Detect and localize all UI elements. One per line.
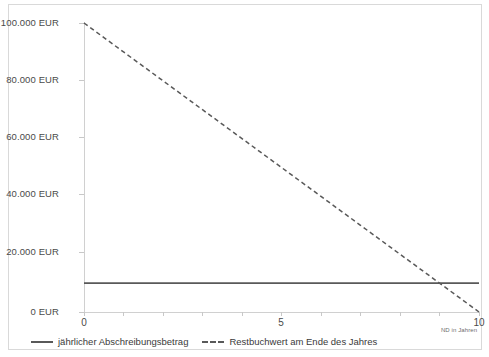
legend-item-residual-book-value[interactable]: Restbuchwert am Ende des Jahres [202, 337, 377, 347]
x-tick-mark [360, 312, 361, 316]
x-tick-mark [321, 312, 322, 316]
y-tick-label: 60.000 EUR [6, 131, 59, 142]
legend-dashed-line-icon [202, 341, 224, 343]
y-tick-mark [79, 80, 84, 81]
x-tick-mark [439, 312, 440, 316]
y-tick-mark [79, 252, 84, 253]
chart-legend: jährlicher Abschreibungsbetrag Restbuchw… [31, 337, 377, 347]
y-tick-mark [79, 137, 84, 138]
legend-item-annual-depreciation[interactable]: jährlicher Abschreibungsbetrag [31, 337, 188, 347]
x-tick-mark [400, 312, 401, 316]
x-axis-title: ND in Jahren [427, 327, 489, 333]
legend-label: jährlicher Abschreibungsbetrag [58, 337, 188, 347]
x-tick-mark [163, 312, 164, 316]
y-tick-mark [79, 194, 84, 195]
series-layer [9, 5, 489, 357]
y-axis-line [84, 22, 85, 313]
chart-frame: 100.000 EUR 80.000 EUR 60.000 EUR 40.000… [8, 4, 482, 350]
y-tick-label: 100.000 EUR [1, 17, 59, 28]
x-tick-mark [242, 312, 243, 316]
x-tick-mark [84, 312, 85, 316]
legend-solid-line-icon [31, 341, 53, 343]
x-tick-mark [281, 312, 282, 316]
y-tick-label: 40.000 EUR [6, 188, 59, 199]
x-tick-mark [123, 312, 124, 316]
x-tick-mark [202, 312, 203, 316]
x-tick-label: 5 [266, 317, 296, 328]
x-tick-mark [479, 312, 480, 316]
y-tick-label: 20.000 EUR [6, 246, 59, 257]
y-tick-label: 80.000 EUR [6, 74, 59, 85]
legend-label: Restbuchwert am Ende des Jahres [229, 337, 377, 347]
x-tick-label: 0 [69, 317, 99, 328]
series-line-residual-book-value [84, 23, 479, 312]
x-axis-line [84, 312, 480, 313]
y-tick-mark [79, 23, 84, 24]
y-tick-label: 0 EUR [31, 306, 59, 317]
